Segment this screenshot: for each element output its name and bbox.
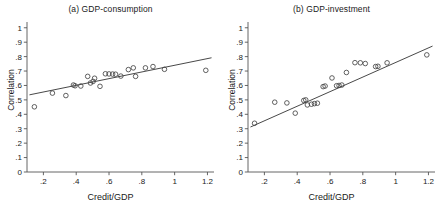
scatter-point-b (358, 61, 363, 66)
y-tick-label-b: .6 (236, 81, 243, 90)
y-tick-label-b: .4 (236, 110, 243, 119)
scatter-point-b (344, 70, 349, 75)
axis-lines-a (27, 22, 214, 172)
y-tick-label-a: .2 (15, 139, 22, 148)
x-axis-label-a: Credit/GDP (0, 192, 221, 202)
scatter-point-b (293, 111, 298, 116)
scatter-point-b (272, 100, 277, 105)
x-tick-label-a: .8 (138, 177, 145, 186)
y-tick-label-b: .7 (236, 67, 243, 76)
scatter-point-a (32, 105, 37, 110)
y-tick-label-a: .3 (15, 125, 22, 134)
y-tick-label-b: .9 (236, 38, 243, 47)
scatter-point-a (85, 74, 90, 79)
scatter-point-a (203, 68, 208, 73)
x-tick-label-a: 1 (172, 177, 177, 186)
scatter-point-a (64, 93, 69, 98)
y-tick-label-b: .1 (236, 153, 243, 162)
y-tick-label-b: .5 (236, 96, 243, 105)
figure-two-panel-scatter: (a) GDP-consumption Correlation 0.1.2.3.… (0, 0, 443, 215)
plot-area-a: 0.1.2.3.4.5.6.7.8.91.2.4.6.811.2 (0, 0, 221, 215)
fit-line-a (29, 58, 211, 95)
y-tick-label-b: .3 (236, 125, 243, 134)
scatter-point-b (353, 60, 358, 65)
x-tick-label-b: .4 (294, 177, 301, 186)
x-tick-label-b: .8 (359, 177, 366, 186)
y-tick-label-a: 1 (18, 24, 23, 33)
y-tick-label-a: .6 (15, 81, 22, 90)
plot-area-b: 0.1.2.3.4.5.6.7.8.91.2.4.6.811.2 (221, 0, 442, 215)
y-tick-label-a: .9 (15, 38, 22, 47)
y-tick-label-b: 0 (239, 168, 244, 177)
x-tick-label-b: 1.2 (423, 177, 435, 186)
y-tick-label-b: 1 (239, 24, 244, 33)
x-axis-label-b: Credit/GDP (221, 192, 442, 202)
y-tick-label-a: .7 (15, 67, 22, 76)
x-tick-label-b: .2 (261, 177, 268, 186)
scatter-point-b (285, 101, 290, 106)
x-tick-label-a: .6 (106, 177, 113, 186)
y-tick-label-a: .5 (15, 96, 22, 105)
y-tick-label-a: .1 (15, 153, 22, 162)
x-tick-label-b: 1 (393, 177, 398, 186)
scatter-point-a (126, 67, 131, 72)
panel-gdp-consumption: (a) GDP-consumption Correlation 0.1.2.3.… (0, 0, 221, 215)
scatter-point-b (385, 61, 390, 66)
scatter-point-b (330, 76, 335, 81)
scatter-point-a (50, 91, 55, 96)
y-tick-label-a: .8 (15, 53, 22, 62)
y-tick-label-b: .2 (236, 139, 243, 148)
y-tick-label-a: .4 (15, 110, 22, 119)
scatter-point-a (131, 66, 136, 71)
scatter-point-b (363, 61, 368, 66)
scatter-point-b (424, 53, 429, 58)
x-tick-label-a: 1.2 (202, 177, 214, 186)
scatter-point-b (315, 101, 320, 106)
scatter-point-a (151, 64, 156, 69)
axis-lines-b (248, 22, 435, 172)
scatter-point-a (133, 74, 138, 79)
x-tick-label-a: .2 (40, 177, 47, 186)
y-tick-label-a: 0 (18, 168, 23, 177)
scatter-point-a (113, 72, 118, 77)
y-tick-label-b: .8 (236, 53, 243, 62)
x-tick-label-b: .6 (327, 177, 334, 186)
x-tick-label-a: .4 (73, 177, 80, 186)
scatter-point-a (143, 66, 148, 71)
panel-gdp-investment: (b) GDP-investment Correlation 0.1.2.3.4… (221, 0, 442, 215)
scatter-point-a (98, 84, 103, 89)
